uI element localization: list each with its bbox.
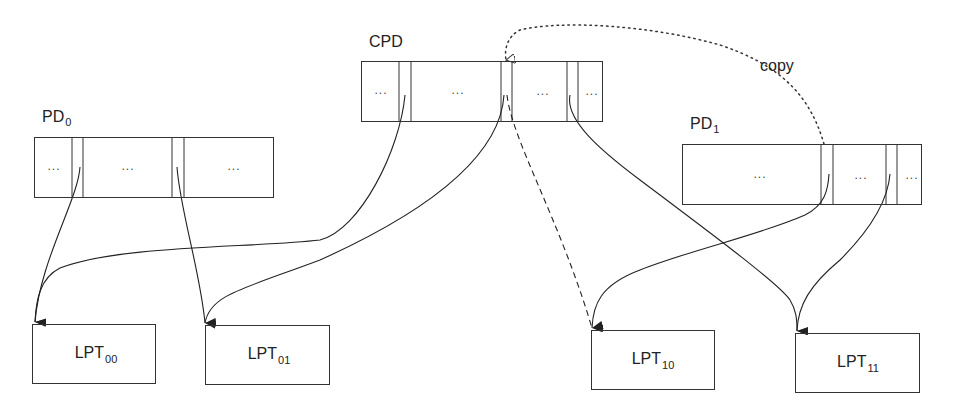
cpd-cell-3: ... <box>585 84 598 98</box>
edge-cpd-to-lpt11 <box>570 95 797 331</box>
lpt01-label: LPT01 <box>248 345 291 366</box>
edge-cpd-to-lpt10-dashed <box>507 95 592 328</box>
cpd-cell-0: ... <box>374 83 387 97</box>
lpt00-label: LPT00 <box>75 344 118 365</box>
cpd-label: CPD <box>369 33 403 51</box>
pd1-cell-2: ... <box>905 168 918 182</box>
edge-cpd-to-lpt00 <box>35 95 405 322</box>
pd0-label: PD0 <box>42 108 71 128</box>
pd1-table <box>682 144 922 205</box>
pd0-cell-0: ... <box>47 159 60 173</box>
lpt10-label: LPT10 <box>632 350 675 371</box>
edge-cpd-to-lpt01 <box>205 95 504 323</box>
pd0-cell-2: ... <box>227 159 240 173</box>
pd1-cell-0: ... <box>753 167 766 181</box>
copy-label: copy <box>760 57 794 75</box>
cpd-cell-2: ... <box>536 84 549 98</box>
pd1-label: PD1 <box>690 115 719 135</box>
cpd-table <box>361 61 603 122</box>
pd0-cell-1: ... <box>121 159 134 173</box>
lpt11-label: LPT11 <box>837 353 879 374</box>
cpd-cell-1: ... <box>451 83 464 97</box>
pd1-cell-1: ... <box>854 168 867 182</box>
